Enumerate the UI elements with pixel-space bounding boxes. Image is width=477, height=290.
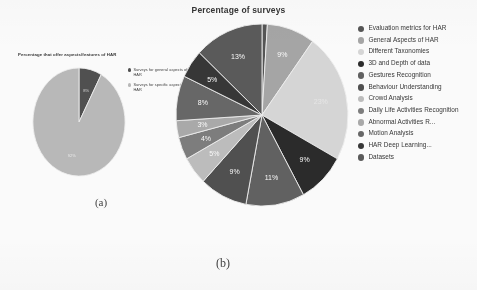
pie-slice-label: 11% — [265, 174, 279, 181]
big-pie-svg: 9%23%9%11%9%5%4%3%8%5%13% — [174, 22, 350, 208]
legend-item[interactable]: Evaluation metrics for HAR — [358, 24, 476, 32]
pie-slice-label: 5% — [207, 76, 217, 83]
legend-swatch-icon — [128, 68, 131, 71]
legend-swatch-icon — [358, 61, 364, 67]
small-pie-chart: 8%92% — [31, 66, 127, 178]
legend-item-label: Different Taxonomies — [368, 47, 429, 55]
panel-a: Percentage that offer aspects/features o… — [6, 44, 196, 229]
legend-item-label: 3D and Depth of data — [368, 59, 430, 67]
legend-item[interactable]: 3D and Depth of data — [358, 59, 476, 67]
legend-item-label: Gestures Recognition — [368, 71, 430, 79]
legend-item[interactable]: Behaviour Understanding — [358, 83, 476, 91]
legend-swatch-icon — [128, 83, 131, 86]
big-pie-chart: 9%23%9%11%9%5%4%3%8%5%13% — [174, 22, 350, 208]
figure-main-title: Percentage of surveys — [0, 5, 477, 15]
legend-swatch-icon — [358, 72, 364, 78]
legend-item-label: Crowd Analysis — [368, 94, 412, 102]
panel-a-title: Percentage that offer aspects/features o… — [18, 52, 116, 57]
pie-slice-label: 3% — [197, 121, 207, 128]
legend-item-label: Behaviour Understanding — [368, 83, 441, 91]
pie-slice-label: 13% — [231, 53, 245, 60]
legend-item[interactable]: General Aspects of HAR — [358, 36, 476, 44]
legend-item-label: Abnormal Activities R... — [368, 118, 435, 126]
legend-item[interactable]: Crowd Analysis — [358, 94, 476, 102]
legend-item[interactable]: Abnormal Activities R... — [358, 118, 476, 126]
legend-item-label: Datasets — [368, 153, 394, 161]
pie-slice-label: 9% — [230, 168, 240, 175]
legend-item[interactable]: Motion Analysis — [358, 129, 476, 137]
legend-item[interactable]: HAR Deep Learning... — [358, 141, 476, 149]
legend-item-label: Evaluation metrics for HAR — [368, 24, 446, 32]
pie-slice-label: 9% — [300, 156, 310, 163]
legend-swatch-icon — [358, 37, 364, 43]
legend-swatch-icon — [358, 26, 364, 32]
legend-swatch-icon — [358, 49, 364, 55]
legend-item-label: Daily Life Activities Recognition — [368, 106, 458, 114]
small-pie-svg: 8%92% — [31, 66, 127, 178]
legend-item[interactable]: Daily Life Activities Recognition — [358, 106, 476, 114]
pie-slice-label: 5% — [209, 150, 219, 157]
legend-item-label: HAR Deep Learning... — [368, 141, 432, 149]
pie-slice[interactable] — [33, 68, 125, 176]
panel-a-caption: (a) — [6, 196, 196, 208]
legend-item[interactable]: Different Taxonomies — [358, 47, 476, 55]
figure-root: Percentage of surveys Percentage that of… — [0, 0, 477, 290]
legend-item[interactable]: Datasets — [358, 153, 476, 161]
legend-item-label: General Aspects of HAR — [368, 36, 438, 44]
legend-swatch-icon — [358, 154, 364, 160]
pie-slice-label: 23% — [314, 98, 328, 105]
legend-swatch-icon — [358, 119, 364, 125]
legend-swatch-icon — [358, 108, 364, 114]
panel-b-caption: (b) — [216, 256, 230, 271]
pie-slice-label: 4% — [201, 135, 211, 142]
legend-item[interactable]: Gestures Recognition — [358, 71, 476, 79]
pie-slice-label: 92% — [68, 153, 76, 158]
legend-swatch-icon — [358, 143, 364, 149]
pie-slice-label: 8% — [83, 88, 89, 93]
pie-slice-label: 9% — [277, 51, 287, 58]
legend-swatch-icon — [358, 96, 364, 102]
legend-swatch-icon — [358, 131, 364, 137]
legend-item-label: Motion Analysis — [368, 129, 413, 137]
legend-swatch-icon — [358, 84, 364, 90]
panel-b-legend: Evaluation metrics for HARGeneral Aspect… — [358, 24, 476, 164]
pie-slice-label: 8% — [198, 99, 208, 106]
panel-b: 9%23%9%11%9%5%4%3%8%5%13% (b) — [170, 18, 350, 268]
